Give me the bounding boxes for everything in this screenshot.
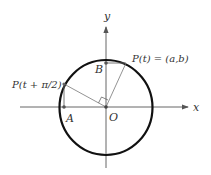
label-B: B — [94, 63, 103, 76]
unit-circle-diagram: y x O B A P(t) = (a,b) P(t + π/2) — [0, 0, 211, 175]
right-angle-marker — [99, 97, 109, 103]
label-Pt-plus: P(t + π/2) — [11, 79, 62, 90]
segment-O-to-Pt — [106, 63, 126, 107]
point-A — [62, 105, 66, 109]
point-Pt-plus — [62, 82, 65, 85]
x-axis-label: x — [193, 101, 200, 114]
point-B — [104, 61, 108, 65]
label-A: A — [65, 112, 74, 125]
origin-label: O — [109, 111, 118, 124]
y-axis-label: y — [103, 10, 111, 23]
point-origin — [104, 105, 108, 109]
segment-O-to-Pt-plus — [64, 84, 106, 107]
label-Pt: P(t) = (a,b) — [131, 53, 189, 64]
